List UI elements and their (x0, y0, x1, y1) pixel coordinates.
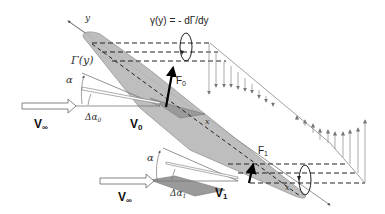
tip-section (150, 176, 225, 196)
lifting-line (92, 44, 300, 196)
freestream-arrow-tip (100, 174, 154, 188)
x-axis-label-mid: x (205, 117, 210, 126)
gamma-arrows-down (209, 44, 273, 106)
delta-alpha-label-root: Δα0 (84, 112, 102, 123)
gamma-distribution-line (210, 43, 330, 143)
x-axis-label-tip: x (285, 183, 290, 192)
velocity-label-root: V0 (130, 117, 143, 132)
freestream-label-root: V∞ (34, 117, 48, 132)
freestream-arrow-root (22, 99, 76, 113)
swirl-arrow-icon-tip (297, 176, 301, 181)
freestream-label-tip: V∞ (118, 190, 132, 205)
delta-alpha-arc-root (88, 94, 91, 105)
diagram-canvas: y x x Γ(y) γ(y) = - dΓ/dy F0 F1 α α Δα0 … (0, 0, 385, 214)
y-axis-label: y (84, 13, 91, 23)
alpha-label-tip: α (147, 152, 154, 163)
vortex-swirl-icon-root (180, 33, 192, 61)
alpha-arc-tip (156, 151, 160, 180)
force-label-tip: F1 (258, 145, 268, 157)
lifting-line-diagram: y x x Γ(y) γ(y) = - dΓ/dy F0 F1 α α Δα0 … (0, 0, 385, 214)
vortex-swirl-icon-tip (299, 165, 311, 195)
vortex-strength-label: γ(y) = - dΓ/dy (150, 15, 209, 26)
alpha-label-root: α (66, 74, 73, 85)
velocity-label-tip: V1 (215, 186, 228, 201)
force-label-root: F0 (176, 75, 186, 87)
circulation-label: Γ(y) (70, 54, 93, 67)
